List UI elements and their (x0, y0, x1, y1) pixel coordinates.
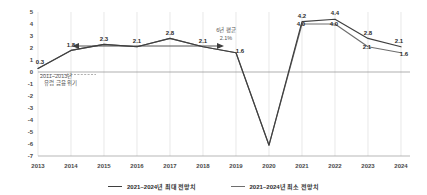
y-tick-label: -1 (28, 81, 34, 87)
x-tick-label: 2024 (394, 163, 408, 169)
y-tick-label: -6 (28, 141, 34, 147)
gridlines (38, 12, 401, 156)
legend-label-min: 2021~2024년 최소 전망치 (250, 182, 320, 191)
data-label: 2.1 (395, 38, 404, 44)
y-tick-label: 2 (30, 45, 34, 51)
y-tick-label: 1 (30, 57, 34, 63)
x-tick-label: 2018 (196, 163, 210, 169)
y-tick-label: 4 (30, 21, 34, 27)
y-tick-label: -5 (28, 129, 34, 135)
legend-label-max: 2021~2024년 최대 전망치 (127, 182, 197, 191)
y-tick-label: -3 (28, 105, 34, 111)
data-label: 1.6 (236, 48, 245, 54)
y-tick-label: -4 (28, 117, 34, 123)
arrow-right-icon (217, 43, 224, 49)
crisis-annotation-line1: 2011~2013년 (40, 72, 72, 79)
growth-forecast-chart: 5 4 3 2 1 0 -1 -2 -3 -4 -5 -6 -7 2013 20… (0, 0, 427, 195)
x-tick-label: 2014 (64, 163, 78, 169)
y-tick-label: -2 (28, 93, 34, 99)
legend-swatch-min-icon (231, 186, 245, 187)
data-label: 1.6 (400, 51, 409, 57)
y-tick-label: 3 (30, 33, 34, 39)
y-tick-label: 0 (30, 69, 34, 75)
chart-plot-area: 5 4 3 2 1 0 -1 -2 -3 -4 -5 -6 -7 2013 20… (0, 0, 427, 195)
crisis-annotation-line2: 유럽 금융 위기 (44, 79, 77, 87)
y-tick-label: -7 (28, 153, 34, 159)
data-label: 2.8 (364, 30, 373, 36)
x-tick-label: 2017 (163, 163, 177, 169)
legend-swatch-max-icon (108, 186, 122, 187)
data-label: 4.0 (330, 21, 339, 27)
series-line-min (38, 24, 401, 145)
x-tick-label: 2020 (262, 163, 276, 169)
x-tick-label: 2019 (229, 163, 243, 169)
y-axis-ticks: 5 4 3 2 1 0 -1 -2 -3 -4 -5 -6 -7 (28, 9, 34, 159)
chart-legend: 2021~2024년 최대 전망치 2021~2024년 최소 전망치 (0, 182, 427, 191)
average-annotation-line1: 6년 평균 (216, 26, 236, 33)
data-label: 2.1 (363, 44, 372, 50)
data-label: 0.3 (36, 59, 45, 65)
annotation-average: 6년 평균 2.1% (72, 26, 236, 49)
data-label: 4.0 (297, 21, 306, 27)
data-label: 2.3 (100, 36, 109, 42)
x-tick-label: 2023 (361, 163, 375, 169)
legend-item-max[interactable]: 2021~2024년 최대 전망치 (108, 182, 197, 191)
average-annotation-line2: 2.1% (220, 35, 233, 41)
legend-item-min[interactable]: 2021~2024년 최소 전망치 (231, 182, 320, 191)
x-axis-ticks: 2013 2014 2015 2016 2017 2018 2019 2020 … (31, 163, 408, 169)
data-label: 4.2 (298, 13, 307, 19)
y-tick-label: 5 (30, 9, 34, 15)
data-label: 4.4 (331, 10, 340, 16)
x-tick-label: 2016 (130, 163, 144, 169)
x-tick-label: 2015 (97, 163, 111, 169)
x-tick-label: 2021 (295, 163, 309, 169)
annotation-crisis: 2011~2013년 유럽 금융 위기 (40, 72, 96, 88)
data-label: 2.1 (133, 38, 142, 44)
data-label: 2.1 (199, 38, 208, 44)
x-tick-label: 2022 (328, 163, 342, 169)
data-label: 2.8 (166, 30, 175, 36)
x-tick-label: 2013 (31, 163, 45, 169)
